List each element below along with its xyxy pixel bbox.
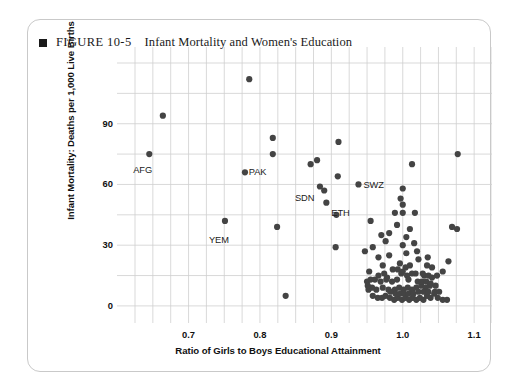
y-tick-label: 0	[87, 300, 113, 311]
grid-horizontal	[117, 63, 492, 306]
x-tick-label: 1.1	[454, 329, 494, 340]
y-tick-label: 90	[87, 118, 113, 129]
x-tick-label: 0.7	[169, 329, 209, 340]
y-tick-label: 30	[87, 239, 113, 250]
grid-vertical	[135, 47, 492, 323]
page-root: FIGURE 10-5 Infant Mortality and Women's…	[0, 0, 518, 391]
annotation-eth: ETH	[331, 208, 349, 218]
x-tick-label: 0.8	[240, 329, 280, 340]
plot-canvas	[28, 20, 492, 373]
annotation-pak: PAK	[249, 167, 267, 177]
x-axis-label: Ratio of Girls to Boys Educational Attai…	[108, 345, 448, 356]
annotation-yem: YEM	[209, 235, 229, 245]
figure-card: FIGURE 10-5 Infant Mortality and Women's…	[27, 19, 491, 372]
annotation-afg: AFG	[133, 165, 152, 175]
x-tick-label: 0.9	[311, 329, 351, 340]
data-points	[146, 76, 461, 303]
annotation-sdn: SDN	[295, 193, 314, 203]
x-tick-label: 1.0	[383, 329, 423, 340]
y-axis-label: Infant Mortality: Deaths per 1,000 Live …	[65, 21, 76, 221]
scatter-chart: Infant Mortality: Deaths per 1,000 Live …	[28, 20, 492, 373]
annotation-swz: SWZ	[363, 180, 383, 190]
y-tick-label: 60	[87, 178, 113, 189]
